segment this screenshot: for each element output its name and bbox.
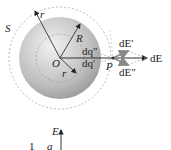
label-dq-lower: dq' xyxy=(82,57,95,69)
parallelogram-lower xyxy=(128,58,146,65)
label-outer-r: r xyxy=(40,8,45,20)
graph-label-E: E xyxy=(51,125,59,137)
label-dE-lower: dE" xyxy=(119,66,136,78)
label-R: R xyxy=(75,32,83,44)
sphere-field-diagram: S r R O r dq" dq' P dE' dE" dE E 1 a xyxy=(0,0,171,150)
label-O: O xyxy=(52,57,60,69)
label-dE-upper: dE' xyxy=(119,37,133,49)
label-P: P xyxy=(105,60,113,72)
graph-label-1: 1 xyxy=(29,140,35,150)
label-S: S xyxy=(5,22,11,34)
label-dE-total: dE xyxy=(150,52,163,64)
parallelogram-upper xyxy=(128,51,146,58)
dashed-vertical-top xyxy=(110,30,113,58)
label-inner-r: r xyxy=(62,67,67,79)
field-lower-arrow xyxy=(113,58,128,65)
field-upper-arrow xyxy=(113,51,128,58)
label-dq-upper: dq" xyxy=(82,45,98,57)
graph-label-a: a xyxy=(47,140,53,150)
